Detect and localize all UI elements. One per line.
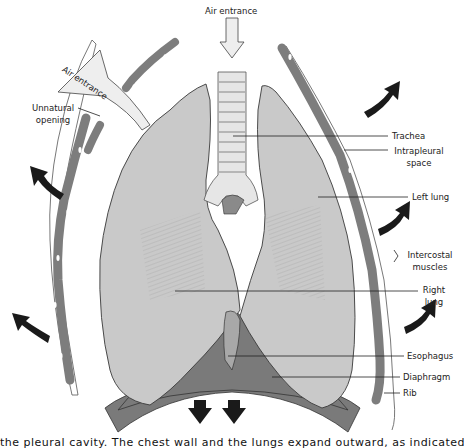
label-right-lung-2: lung bbox=[418, 297, 450, 307]
label-air-entrance-top: Air entrance bbox=[205, 6, 257, 16]
label-unnatural-opening-2: opening bbox=[28, 115, 78, 125]
air-entrance-top-arrow bbox=[220, 18, 244, 58]
label-intrapleural-1: Intrapleural bbox=[391, 146, 447, 156]
label-trachea: Trachea bbox=[392, 131, 425, 141]
label-intrapleural-2: space bbox=[391, 158, 447, 168]
label-left-lung: Left lung bbox=[412, 192, 449, 202]
pneumothorax-diagram: Air entrance Air entrance Unnatural open… bbox=[0, 0, 464, 448]
label-unnatural-opening-1: Unnatural bbox=[28, 103, 78, 113]
label-intercostal-1: Intercostal bbox=[402, 250, 458, 260]
label-intercostal-2: muscles bbox=[402, 262, 458, 272]
label-esophagus: Esophagus bbox=[407, 351, 453, 361]
label-diaphragm: Diaphragm bbox=[403, 372, 450, 382]
label-right-lung-1: Right bbox=[418, 285, 450, 295]
label-rib: Rib bbox=[403, 388, 417, 398]
trachea-shape bbox=[204, 72, 258, 214]
figure-caption: the pleural cavity. The chest wall and t… bbox=[0, 436, 464, 448]
